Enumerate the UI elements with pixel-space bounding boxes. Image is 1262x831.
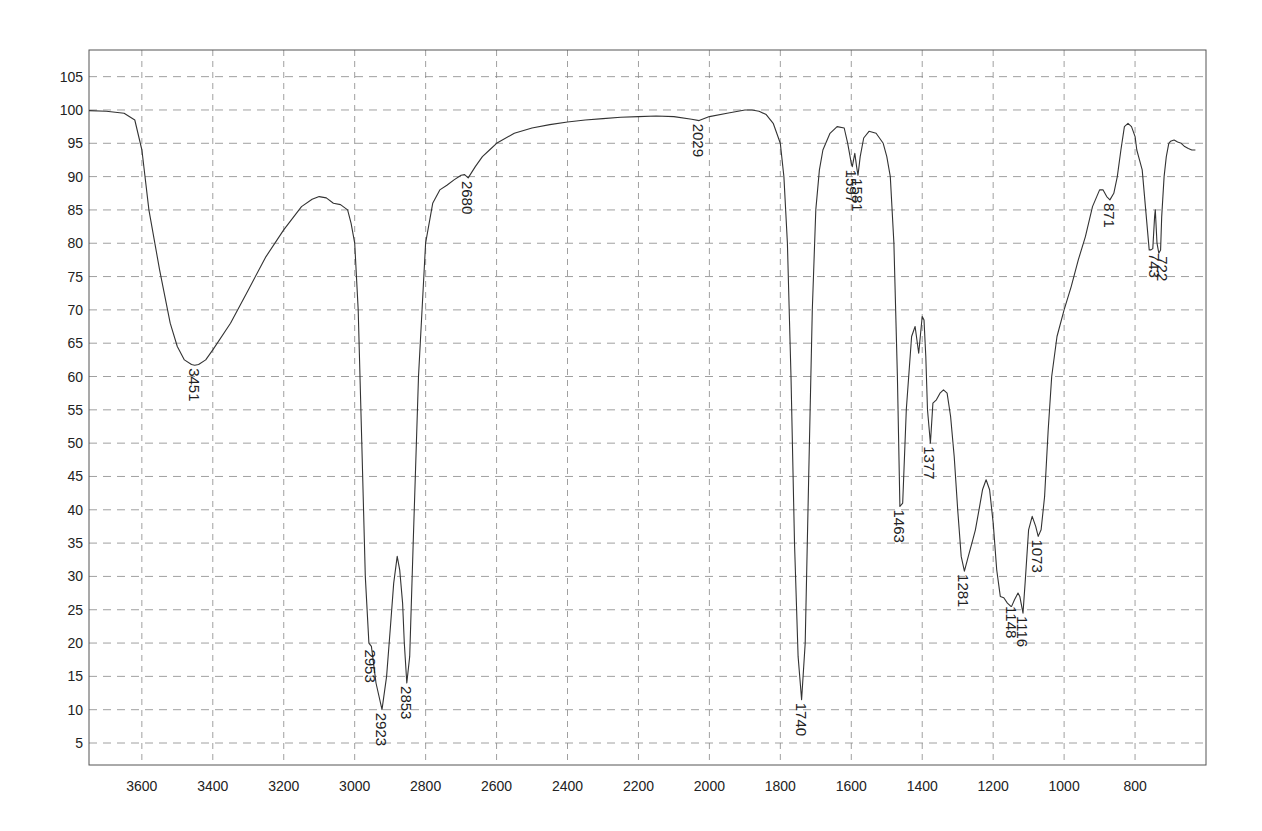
x-tick-label: 2200	[623, 778, 654, 794]
y-tick-label: 10	[67, 702, 83, 718]
x-tick-label: 2000	[694, 778, 725, 794]
peak-label: 1463	[891, 509, 908, 542]
x-tick-label: 3400	[197, 778, 228, 794]
peak-label: 871	[1101, 203, 1118, 228]
x-tick-label: 2600	[481, 778, 512, 794]
y-tick-label: 90	[67, 169, 83, 185]
y-tick-label: 15	[67, 668, 83, 684]
y-tick-label: 95	[67, 135, 83, 151]
y-tick-label: 45	[67, 468, 83, 484]
plot-frame	[89, 50, 1206, 765]
y-tick-label: 20	[67, 635, 83, 651]
peak-label: 2923	[373, 713, 390, 746]
peak-label: 2029	[690, 124, 707, 157]
y-tick-label: 40	[67, 502, 83, 518]
peak-label: 2853	[398, 686, 415, 719]
y-tick-label: 35	[67, 535, 83, 551]
peak-label: 2680	[459, 181, 476, 214]
peak-label: 1281	[955, 574, 972, 607]
y-tick-label: 50	[67, 435, 83, 451]
y-tick-label: 80	[67, 235, 83, 251]
peak-label: 2953	[362, 649, 379, 682]
x-tick-label: 1000	[1049, 778, 1080, 794]
x-tick-label: 1800	[765, 778, 796, 794]
x-tick-label: 3000	[339, 778, 370, 794]
y-tick-label: 65	[67, 335, 83, 351]
peak-labels: 3451295329232853268020291740159715811463…	[186, 124, 1171, 746]
y-tick-label: 70	[67, 302, 83, 318]
y-tick-label: 25	[67, 602, 83, 618]
x-tick-label: 3200	[268, 778, 299, 794]
x-tick-label: 2400	[552, 778, 583, 794]
peak-label: 722	[1154, 256, 1171, 281]
y-tick-label: 100	[60, 102, 84, 118]
y-tick-label: 85	[67, 202, 83, 218]
peak-label: 1740	[793, 703, 810, 736]
x-tick-label: 2800	[410, 778, 441, 794]
peak-label: 3451	[186, 368, 203, 401]
x-tick-label: 1400	[907, 778, 938, 794]
y-tick-label: 30	[67, 568, 83, 584]
ir-spectrum-chart: 3600340032003000280026002400220020001800…	[0, 0, 1262, 831]
x-tick-label: 3600	[126, 778, 157, 794]
x-tick-label: 1600	[836, 778, 867, 794]
peak-label: 1581	[849, 178, 866, 211]
y-tick-label: 105	[60, 69, 84, 85]
peak-label: 1116	[1014, 616, 1031, 647]
y-tick-label: 55	[67, 402, 83, 418]
x-tick-label: 1200	[978, 778, 1009, 794]
peak-label: 1073	[1029, 539, 1046, 572]
peak-label: 1377	[921, 446, 938, 479]
x-axis-ticks: 3600340032003000280026002400220020001800…	[126, 778, 1147, 794]
y-tick-label: 5	[75, 735, 83, 751]
y-axis-ticks: 5101520253035404550556065707580859095100…	[60, 69, 84, 751]
y-tick-label: 75	[67, 269, 83, 285]
y-tick-label: 60	[67, 369, 83, 385]
grid-lines	[89, 50, 1206, 765]
x-tick-label: 800	[1123, 778, 1147, 794]
